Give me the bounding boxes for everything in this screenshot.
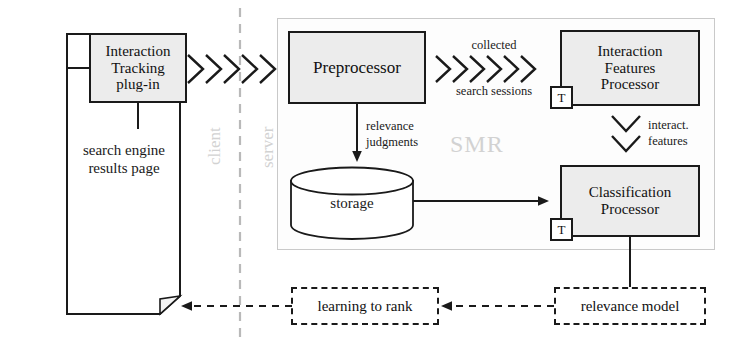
edge-ltr-to-serp [178,299,294,313]
edge-classification-to-relevance-model [629,237,631,287]
edge-label-search-sessions: search sessions [424,84,564,98]
edge-label-judgments: judgments [366,135,418,149]
tracking-plugin-line3: plug-in [116,76,159,93]
node-relevance-model: relevance model [554,287,706,325]
zone-label-server: server [258,126,278,168]
flow-arrow-tracking-to-preprocessor [186,52,282,86]
smr-container-label: SMR [450,131,504,159]
ifp-line2: Features [605,60,656,77]
flow-arrow-interact-features [609,114,643,162]
tracking-plugin-line1: Interaction [106,43,171,60]
relevance-model-label: relevance model [581,298,680,315]
node-learning-to-rank: learning to rank [291,287,439,325]
node-classification-processor: Classification Processor [560,165,700,237]
node-interaction-tracking-plugin: Interaction Tracking plug-in [89,33,187,103]
edge-preprocessor-to-storage [350,104,364,166]
classification-line2: Processor [601,201,659,218]
edge-relevance-model-to-ltr [438,299,556,313]
edge-storage-to-classification [413,194,553,208]
edge-plugin-to-serp-body [137,103,139,129]
classification-line1: Classification [589,184,672,201]
ifp-line3: Processor [601,76,659,93]
storage-label: storage [289,195,415,212]
edge-label-collected: collected [434,38,554,52]
edge-label-relevance: relevance [366,119,414,133]
transform-badge-ifp: T [550,86,573,109]
node-interaction-features-processor: Interaction Features Processor [560,30,700,106]
edge-label-interact: interact. [648,118,689,132]
flow-arrow-collected-search-sessions [434,54,554,86]
transform-badge-classification: T [550,218,573,241]
tracking-plugin-line2: Tracking [111,60,165,77]
preprocessor-label: Preprocessor [313,58,401,77]
serp-label-line1: search engine [66,142,182,159]
diagram-canvas: SMR client server search engine results … [0,0,742,352]
learning-to-rank-label: learning to rank [318,298,413,315]
ifp-line1: Interaction [598,43,663,60]
serp-label-line2: results page [66,160,182,177]
edge-label-features: features [648,134,688,148]
node-preprocessor: Preprocessor [288,31,426,104]
zone-label-client: client [205,127,225,165]
edge-plugin-to-serp-left [66,67,90,69]
